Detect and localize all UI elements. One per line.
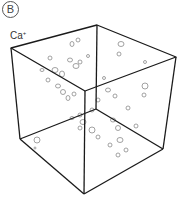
cube-diagram: [0, 0, 182, 200]
density-blobs: [34, 38, 148, 157]
cube-edges: [11, 25, 176, 194]
